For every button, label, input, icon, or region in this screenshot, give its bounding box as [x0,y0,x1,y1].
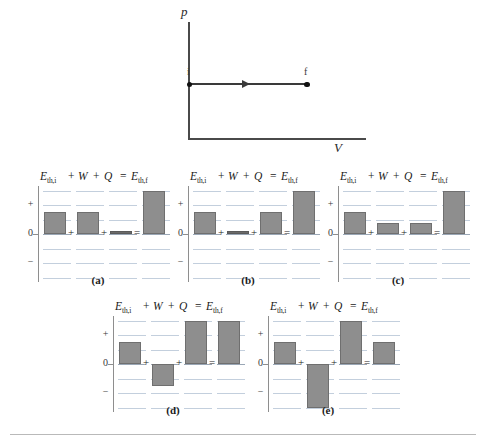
bar-chart-gridline [76,205,104,206]
axis-label-minus: − [25,256,36,267]
inline-operator-plus2: + [101,226,107,238]
bar-column [141,186,171,282]
bar-chart-gridline [259,249,287,250]
bar-chart-zero-gridline [217,364,245,365]
bar-chart-gridline [226,249,254,250]
pv-initial-state-dot [187,82,193,88]
energy-bar-q [340,321,362,365]
axis-label-zero: 0 [25,227,36,238]
bar-chart-zero-gridline [226,234,254,235]
bar-chart-zero-gridline [109,234,137,235]
bar-chart-gridline [43,263,71,264]
energy-bar-q [110,231,132,234]
axis-label-plus: + [325,198,336,209]
bar-chart-gridline [226,191,254,192]
bar-chart-gridline [292,249,320,250]
bar-chart-zero-gridline [343,234,371,235]
axis-zero-tick [263,364,269,365]
axis-label-zero: 0 [325,227,336,238]
term-e-th-f: Eth,f [206,300,222,315]
bar-chart-zero-gridline [118,364,146,365]
term-w: W [153,300,163,312]
inline-operator-equals: = [284,226,290,238]
term-e-th-f: Eth,f [361,300,377,315]
equation-equals: = [195,300,202,312]
bar-chart-gridline [76,191,104,192]
equation-plus-2: + [93,170,100,182]
pv-pressure-axis-label: p [181,4,188,20]
term-e-th-i: Eth,i [40,170,56,185]
energy-bar-chart-d: Eth,i+W+Q=Eth,f+0−++=(d) [97,300,249,418]
energy-bar-e-th-i [194,212,216,234]
bar-chart-zero-gridline [184,364,212,365]
bar-chart-gridline [409,205,437,206]
energy-equation-label: Eth,i+W+Q=Eth,f [40,170,174,186]
pv-final-state-label: f [304,66,307,77]
term-e-th-i: Eth,i [270,300,286,315]
bar-chart-gridline [76,249,104,250]
bar-chart-gridline [273,335,301,336]
energy-bar-chart-e: Eth,i+W+Q=Eth,f+0−++=(e) [252,300,404,418]
equation-plus-2: + [393,170,400,182]
energy-bar-w [307,364,329,408]
bar-chart-gridline [76,263,104,264]
bar-column [291,186,321,282]
axis-label-minus: − [255,386,266,397]
axis-zero-tick [333,234,339,235]
bar-chart-zero-gridline [142,234,170,235]
energy-bar-w [377,223,399,234]
bar-chart-gridline [184,379,212,380]
equation-plus-1: + [68,170,75,182]
energy-equation-label: Eth,i+W+Q=Eth,f [190,170,324,186]
bar-chart-gridline [109,263,137,264]
pv-initial-state-label: i [187,66,190,77]
axis-label-minus: − [175,256,186,267]
inline-operator-plus1: + [218,226,224,238]
bar-chart-zero-gridline [339,364,367,365]
axis-label-zero: 0 [100,357,111,368]
chart-caption: (b) [172,274,324,286]
bar-chart-gridline [409,263,437,264]
equation-equals: = [420,170,427,182]
bar-chart-zero-gridline [376,234,404,235]
inline-operator-equals: = [134,226,140,238]
axis-zero-tick [33,234,39,235]
bar-chart-gridline [43,191,71,192]
energy-bar-w [77,212,99,234]
term-e-th-i: Eth,i [115,300,131,315]
chart-caption: (a) [22,274,174,286]
bar-chart-gridline [372,379,400,380]
bar-column [216,316,246,412]
chart-caption: (e) [252,404,404,416]
energy-bar-e-th-i [344,212,366,234]
equation-plus-1: + [143,300,150,312]
axis-zero-tick [183,234,189,235]
energy-bar-w [227,231,249,234]
term-q: Q [404,170,412,182]
bar-chart-gridline [343,249,371,250]
bar-chart-zero-gridline [43,234,71,235]
term-w: W [78,170,88,182]
bar-chart-gridline [376,263,404,264]
bar-chart-gridline [193,263,221,264]
energy-bar-e-th-f [443,191,465,235]
bar-chart-gridline [193,205,221,206]
bar-chart-gridline [376,205,404,206]
axis-label-zero: 0 [255,357,266,368]
equation-plus-1: + [368,170,375,182]
term-q: Q [254,170,262,182]
bar-chart-gridline [226,220,254,221]
bar-chart-gridline [376,249,404,250]
energy-bar-chart-a: Eth,i+W+Q=Eth,f+0−++=(a) [22,170,174,288]
term-e-th-f: Eth,f [131,170,147,185]
axis-label-plus: + [255,328,266,339]
bar-chart-gridline [151,321,179,322]
energy-equation-label: Eth,i+W+Q=Eth,f [270,300,404,316]
energy-bar-q [185,321,207,365]
pv-diagram: p V i f [150,4,370,154]
energy-bar-w [152,364,174,386]
energy-bar-e-th-f [293,191,315,235]
bar-chart-gridline [259,191,287,192]
bar-chart-gridline [442,249,470,250]
bar-chart-gridline [343,205,371,206]
